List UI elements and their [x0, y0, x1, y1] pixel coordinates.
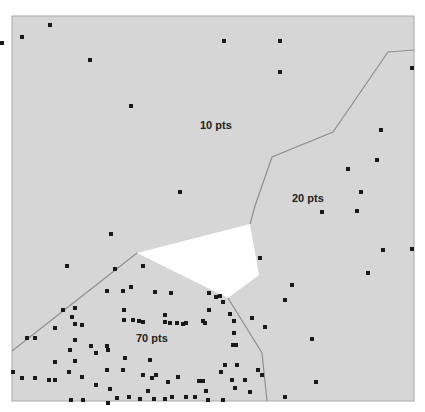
- data-point: [150, 376, 154, 380]
- data-point: [207, 291, 211, 295]
- data-point: [33, 336, 37, 340]
- label-10pts: 10 pts: [200, 119, 232, 131]
- data-point: [314, 380, 318, 384]
- data-point: [148, 358, 152, 362]
- data-point: [153, 290, 157, 294]
- data-point: [53, 378, 57, 382]
- data-point: [221, 398, 225, 402]
- data-point: [106, 401, 110, 405]
- data-point: [278, 70, 282, 74]
- data-point: [410, 66, 414, 70]
- data-point: [105, 289, 109, 293]
- data-point: [73, 306, 77, 310]
- data-point: [122, 318, 126, 322]
- data-point: [20, 376, 24, 380]
- data-point: [123, 356, 127, 360]
- data-point: [197, 379, 201, 383]
- data-point: [121, 368, 125, 372]
- data-point: [175, 321, 179, 325]
- data-point: [232, 319, 236, 323]
- data-point: [163, 313, 167, 317]
- data-point: [53, 360, 57, 364]
- data-point: [122, 308, 126, 312]
- data-point: [80, 375, 84, 379]
- data-point: [163, 397, 167, 401]
- data-point: [235, 363, 239, 367]
- data-point: [152, 397, 156, 401]
- data-point: [206, 398, 210, 402]
- data-point: [320, 210, 324, 214]
- data-point: [258, 256, 262, 260]
- label-70pts: 70 pts: [136, 332, 168, 344]
- data-point: [105, 368, 109, 372]
- data-point: [25, 336, 29, 340]
- data-point: [67, 370, 71, 374]
- data-point: [223, 363, 227, 367]
- data-point: [168, 321, 172, 325]
- data-point: [105, 344, 109, 348]
- data-point: [214, 295, 218, 299]
- data-point: [176, 375, 180, 379]
- data-point: [146, 389, 150, 393]
- data-point: [61, 308, 65, 312]
- voronoi-diagram: [0, 0, 425, 412]
- data-point: [48, 23, 52, 27]
- data-point: [346, 167, 350, 171]
- data-point: [0, 41, 4, 45]
- data-point: [69, 398, 73, 402]
- data-point: [193, 395, 197, 399]
- data-point: [379, 128, 383, 132]
- data-point: [53, 326, 57, 330]
- data-point: [108, 387, 112, 391]
- data-point: [366, 271, 370, 275]
- data-point: [248, 390, 252, 394]
- data-point: [106, 348, 110, 352]
- data-point: [260, 373, 264, 377]
- data-point: [169, 291, 173, 295]
- data-point: [178, 190, 182, 194]
- data-point: [283, 395, 287, 399]
- data-point: [310, 337, 314, 341]
- data-point: [65, 264, 69, 268]
- data-point: [204, 389, 208, 393]
- data-point: [141, 264, 145, 268]
- data-point: [109, 232, 113, 236]
- data-point: [129, 104, 133, 108]
- data-point: [115, 396, 119, 400]
- data-point: [129, 285, 133, 289]
- data-point: [80, 323, 84, 327]
- data-point: [410, 247, 414, 251]
- data-point: [359, 190, 363, 194]
- data-point: [263, 325, 267, 329]
- data-point: [207, 308, 211, 312]
- data-point: [166, 380, 170, 384]
- data-point: [375, 158, 379, 162]
- plot-frame: [12, 16, 414, 401]
- data-point: [73, 322, 77, 326]
- data-point: [141, 320, 145, 324]
- data-point: [184, 395, 188, 399]
- data-point: [47, 378, 51, 382]
- label-20pts: 20 pts: [292, 192, 324, 204]
- data-point: [230, 378, 234, 382]
- data-point: [163, 320, 167, 324]
- data-point: [283, 298, 287, 302]
- data-point: [113, 267, 117, 271]
- data-point: [70, 315, 74, 319]
- data-point: [278, 39, 282, 43]
- data-point: [137, 319, 141, 323]
- data-point: [181, 322, 185, 326]
- data-point: [232, 331, 236, 335]
- data-point: [88, 58, 92, 62]
- data-point: [11, 370, 15, 374]
- data-point: [219, 370, 223, 374]
- data-point: [131, 318, 135, 322]
- data-point: [250, 316, 254, 320]
- data-point: [68, 348, 72, 352]
- data-point: [218, 294, 222, 298]
- data-point: [243, 378, 247, 382]
- data-point: [20, 35, 24, 39]
- data-point: [94, 383, 98, 387]
- data-point: [121, 289, 125, 293]
- data-point: [141, 373, 145, 377]
